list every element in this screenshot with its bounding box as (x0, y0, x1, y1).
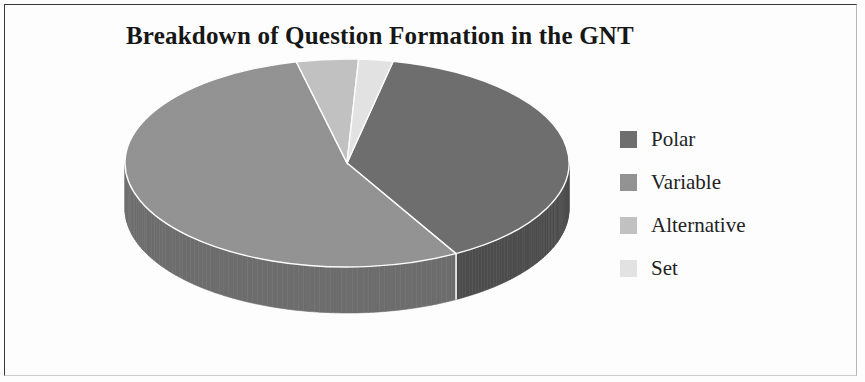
pie-slice-side-polar (505, 235, 508, 282)
pie-slice-side-variable (157, 217, 160, 265)
pie-slice-side-variable (442, 256, 447, 303)
legend-label-alternative: Alternative (651, 215, 745, 236)
pie-chart-figure: Breakdown of Question Formation in the G… (0, 0, 865, 382)
pie-slice-side-variable (202, 242, 206, 290)
pie-slice-side-variable (169, 225, 172, 273)
pie-slice-side-variable (152, 212, 155, 260)
pie-slice-side-variable (331, 267, 336, 313)
pie-slice-side-variable (432, 258, 437, 305)
pie-slice-side-variable (363, 267, 368, 313)
pie-slice-side-polar (525, 224, 527, 271)
pie-slice-side-variable (446, 255, 451, 302)
pie-slice-side-variable (160, 219, 163, 267)
pie-slice-side-variable (176, 229, 180, 277)
pie-slice-side-polar (491, 241, 494, 288)
legend-item-variable[interactable]: Variable (620, 161, 840, 204)
pie-slice-side-variable (267, 260, 272, 307)
pie-slice-side-variable (336, 267, 341, 313)
pie-slice-side-variable (144, 205, 146, 253)
pie-slice-side-variable (320, 266, 325, 312)
chart-title: Breakdown of Question Formation in the G… (0, 22, 760, 50)
legend-swatch-variable (620, 174, 637, 191)
pie-slice-side-variable (416, 261, 421, 308)
pie-slice-side-variable (142, 203, 144, 251)
pie-slice-side-variable (298, 264, 303, 311)
pie-slice-side-variable (257, 258, 262, 305)
pie-slice-side-polar (499, 237, 502, 284)
pie-slice-side-variable (390, 265, 395, 312)
pie-slice-side-variable (154, 215, 157, 263)
pie-slice-side-polar (472, 248, 475, 295)
pie-slice-side-polar (488, 242, 491, 289)
pie-slice-side-polar (507, 234, 510, 281)
pie-slice-side-polar (527, 222, 529, 269)
pie-slice-side-variable (421, 260, 426, 307)
pie-slice-side-variable (238, 254, 243, 301)
pie-slice-side-polar (502, 236, 505, 283)
pie-slice-side-variable (369, 266, 374, 312)
pie-slice-side-variable (211, 245, 215, 293)
pie-slice-side-polar (496, 239, 499, 286)
pie-slice-side-variable (219, 248, 223, 295)
pie-slice-side-variable (352, 267, 357, 313)
pie-slice-side-polar (518, 228, 520, 275)
pie-slice-side-variable (252, 257, 257, 304)
pie-slice-side-polar (459, 252, 462, 299)
pie-slice-side-polar (515, 230, 517, 277)
legend-item-alternative[interactable]: Alternative (620, 204, 840, 247)
pie-slice-side-variable (395, 264, 400, 311)
pie-slice-side-variable (215, 247, 219, 294)
pie-slice-side-variable (374, 266, 379, 312)
pie-slice-side-variable (228, 251, 233, 298)
pie-slice-side-variable (427, 259, 432, 306)
pie-slice-side-variable (183, 233, 187, 281)
pie-slice-side-polar (522, 225, 524, 272)
pie-slice-side-variable (224, 250, 229, 297)
pie-slice-side-variable (194, 238, 198, 286)
pie-slice-side-variable (190, 237, 194, 285)
pie-slice-side-variable (262, 259, 267, 306)
legend-item-polar[interactable]: Polar (620, 118, 840, 161)
pie-slice-side-variable (451, 254, 456, 301)
pie-slice-side-variable (341, 267, 346, 313)
pie-svg (110, 55, 600, 355)
pie-slice-side-polar (529, 221, 531, 268)
pie-slice-side-polar (482, 245, 485, 292)
pie-slice-side-polar (513, 231, 516, 278)
pie-slice-side-variable (172, 227, 175, 275)
legend-label-set: Set (651, 258, 678, 279)
pie-slice-side-polar (466, 250, 469, 297)
pie-slice-side-variable (163, 221, 166, 269)
pie-slice-side-variable (411, 262, 416, 309)
legend-label-polar: Polar (651, 129, 695, 150)
pie-slice-side-variable (293, 264, 298, 311)
chart-legend: Polar Variable Alternative Set (620, 118, 840, 290)
chart-area: Breakdown of Question Formation in the G… (0, 0, 865, 382)
pie-slice-side-variable (277, 262, 282, 309)
legend-label-variable: Variable (651, 172, 721, 193)
pie-slice-side-variable (325, 266, 330, 312)
pie-slice-side-variable (272, 261, 277, 308)
pie-graphic (110, 55, 600, 355)
pie-slice-side-variable (198, 240, 202, 288)
pie-slice-side-variable (243, 255, 248, 302)
pie-slice-side-variable (309, 265, 314, 311)
pie-slice-side-polar (493, 240, 496, 287)
legend-swatch-set (620, 260, 637, 277)
pie-slice-side-polar (463, 251, 466, 298)
pie-slice-side-variable (401, 263, 406, 310)
pie-slice-side-variable (147, 208, 149, 256)
legend-item-set[interactable]: Set (620, 247, 840, 290)
pie-slice-side-polar (510, 232, 513, 279)
pie-slice-side-variable (149, 210, 152, 258)
pie-slice-side-variable (179, 231, 183, 279)
pie-slice-side-variable (347, 267, 352, 313)
legend-swatch-alternative (620, 217, 637, 234)
pie-slice-side-variable (140, 201, 142, 249)
pie-slice-side-variable (437, 257, 442, 304)
pie-slice-side-variable (206, 244, 210, 292)
legend-swatch-polar (620, 131, 637, 148)
pie-slice-side-variable (166, 223, 169, 271)
pie-slice-side-polar (469, 249, 472, 296)
pie-slice-side-polar (531, 219, 533, 267)
